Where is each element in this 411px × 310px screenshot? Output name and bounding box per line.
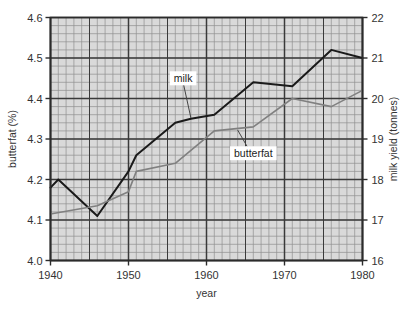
left-tick-label: 4.0 [27, 255, 42, 267]
right-tick-label: 17 [372, 214, 384, 226]
annotation-label-butterfat: butterfat [234, 147, 273, 159]
right-tick-label: 20 [372, 93, 384, 105]
left-tick-label: 4.1 [27, 214, 42, 226]
right-tick-label: 21 [372, 52, 384, 64]
x-axis-title: year [196, 287, 217, 299]
annotation-label-milk: milk [174, 72, 193, 84]
left-tick-label: 4.6 [27, 12, 42, 24]
right-tick-label: 18 [372, 174, 384, 186]
left-tick-label: 4.3 [27, 133, 42, 145]
left-tick-label: 4.4 [27, 93, 42, 105]
x-tick-label: 1970 [272, 269, 296, 281]
right-tick-label: 22 [372, 12, 384, 24]
line-chart: 4.04.14.24.34.44.54.61617181920212219401… [0, 0, 411, 310]
x-tick-label: 1940 [38, 269, 62, 281]
y2-axis-title: milk yield (tonnes) [387, 97, 399, 182]
right-tick-label: 19 [372, 133, 384, 145]
x-tick-label: 1960 [194, 269, 218, 281]
x-tick-label: 1980 [350, 269, 374, 281]
right-tick-label: 16 [372, 255, 384, 267]
chart-root: 4.04.14.24.34.44.54.61617181920212219401… [0, 0, 411, 310]
y-axis-title: butterfat (%) [6, 110, 18, 168]
left-tick-label: 4.2 [27, 174, 42, 186]
left-tick-label: 4.5 [27, 52, 42, 64]
x-tick-label: 1950 [116, 269, 140, 281]
